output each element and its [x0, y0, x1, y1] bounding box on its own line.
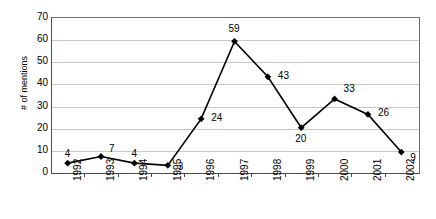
x-axis-tick-mark	[84, 173, 85, 177]
x-axis-tick-label: 1998	[273, 159, 283, 181]
data-point-label: 9	[410, 153, 416, 163]
data-point-label: 24	[211, 113, 222, 123]
data-point-label: 20	[295, 134, 306, 144]
x-axis-tick-mark	[118, 173, 119, 177]
data-point-label: 4	[131, 149, 137, 159]
x-axis-tick-label: 2000	[340, 159, 350, 181]
x-axis-tick-label: 2001	[373, 159, 383, 181]
x-axis-tick-mark	[218, 173, 219, 177]
x-axis-tick-label: 1996	[206, 159, 216, 181]
x-axis-tick-mark	[285, 173, 286, 177]
x-axis-tick-mark	[351, 173, 352, 177]
x-axis-tick-label: 1994	[139, 159, 149, 181]
x-axis-tick-labels: 1992199319941995199619971998199920002001…	[0, 0, 436, 219]
data-point-label: 59	[229, 24, 240, 34]
x-axis-tick-label: 1999	[306, 159, 316, 181]
x-axis-tick-label: 1997	[240, 159, 250, 181]
x-axis-tick-mark	[184, 173, 185, 177]
line-chart: # of mentions 010203040506070 1992199319…	[0, 0, 436, 219]
data-point-label: 3	[178, 162, 184, 172]
data-point-label: 43	[278, 71, 289, 81]
x-axis-tick-mark	[318, 173, 319, 177]
data-point-label: 4	[65, 149, 71, 159]
data-point-label: 33	[344, 84, 355, 94]
x-axis-tick-label: 1992	[73, 159, 83, 181]
x-axis-tick-label: 1993	[106, 159, 116, 181]
x-axis-tick-mark	[385, 173, 386, 177]
data-point-label: 26	[378, 108, 389, 118]
data-point-label: 7	[109, 144, 115, 154]
x-axis-tick-mark	[251, 173, 252, 177]
x-axis-tick-mark	[151, 173, 152, 177]
